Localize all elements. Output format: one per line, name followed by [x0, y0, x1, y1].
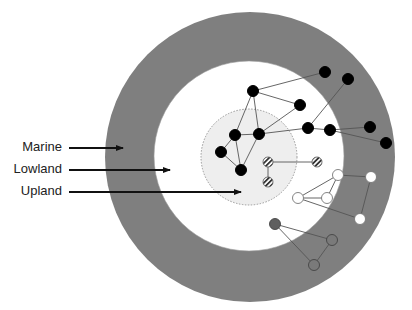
habitat-zone-diagram [0, 0, 412, 310]
black-node-E [254, 129, 265, 140]
label-marine: Marine [0, 139, 62, 155]
white-node-W5 [355, 214, 366, 225]
white-node-W2 [366, 172, 377, 183]
white-node-W3 [293, 193, 304, 204]
black-node-D [230, 130, 241, 141]
black-node-J [381, 138, 392, 149]
black-node-L [236, 165, 247, 176]
striped-node-S3 [312, 157, 322, 167]
black-node-B [320, 67, 331, 78]
black-node-K [216, 147, 227, 158]
label-upland: Upland [0, 183, 62, 199]
black-node-I [365, 122, 376, 133]
gray-node-G3 [309, 260, 320, 271]
black-node-G [325, 125, 336, 136]
black-node-C [295, 100, 306, 111]
white-node-W1 [333, 170, 344, 181]
zones [105, 12, 395, 302]
striped-node-S2 [263, 177, 273, 187]
zone-upland [201, 109, 297, 205]
gray-node-G2 [327, 235, 338, 246]
black-node-F [303, 123, 314, 134]
gray-node-G1 [270, 219, 281, 230]
black-node-A [248, 86, 259, 97]
black-node-H [343, 74, 354, 85]
white-node-W4 [322, 193, 333, 204]
label-lowland: Lowland [0, 161, 62, 177]
striped-node-S1 [263, 157, 273, 167]
